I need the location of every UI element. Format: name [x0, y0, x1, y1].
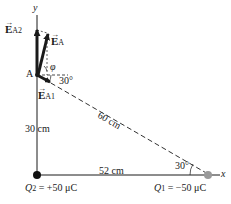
- q2-charge-dot: [33, 171, 41, 179]
- phi-angle-label: φ: [50, 62, 56, 72]
- e-a1-vector-arrow: [37, 75, 50, 82]
- vector-hat-icon: →: [38, 85, 46, 93]
- q2-charge-label: Q2 = +50 μC: [25, 183, 77, 193]
- e-a-label: → EA: [51, 36, 64, 47]
- e-a1-label: → EA1: [38, 90, 55, 101]
- vector-hat-icon: →: [51, 31, 59, 39]
- angle-at-a-label: 30°: [59, 76, 73, 86]
- horizontal-distance-label: 52 cm: [99, 166, 124, 176]
- x-axis-label: x: [221, 169, 225, 179]
- angle-at-q1-label: 30°: [175, 161, 189, 171]
- q1-charge-label: Q1 = −50 μC: [154, 183, 206, 193]
- vertical-distance-label: 30 cm: [25, 124, 50, 134]
- electric-field-diagram: y x → EA2 → EA → EA1 A φ 30° 30° 30 cm 6…: [0, 0, 231, 204]
- y-axis-label: y: [33, 3, 37, 13]
- phi-angle-arc: [44, 66, 47, 71]
- e-a2-label: → EA2: [5, 24, 22, 35]
- vector-hat-icon: →: [5, 19, 13, 27]
- point-a-dot: [35, 73, 39, 77]
- q1-charge-dot: [204, 171, 212, 179]
- angle-arc-at-q1: [190, 164, 193, 175]
- point-a-label: A: [26, 69, 33, 79]
